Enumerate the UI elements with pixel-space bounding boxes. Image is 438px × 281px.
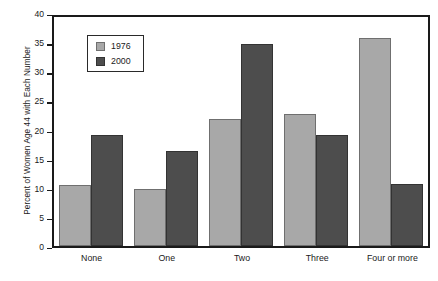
bar-four-or-more-1976 [359,38,391,246]
bar-none-1976 [59,185,91,246]
bar-three-2000 [316,135,348,246]
y-axis-title: Percent of Women Age 44 with Each Number [23,6,32,256]
bar-group [204,15,279,246]
x-axis-tick-labels: NoneOneTwoThreeFour or more [54,253,430,263]
y-axis-tick: 25 [47,102,52,103]
bar-group [279,15,354,246]
bar-none-2000 [91,135,123,246]
x-axis-label: Three [280,253,355,263]
x-axis-label: Four or more [355,253,430,263]
y-axis-tick-label: 5 [39,213,44,223]
y-axis-tick: 10 [47,190,52,191]
chart-legend: 1976 2000 [87,35,144,72]
y-axis-tick: 40 [47,15,52,16]
legend-item: 1976 [96,41,131,51]
y-axis-tick-label: 30 [34,67,44,77]
y-axis-tick-label: 40 [34,9,44,19]
y-axis-tick-label: 15 [34,155,44,165]
bar-two-1976 [209,119,241,246]
x-axis-label: One [129,253,204,263]
y-axis-tick: 0 [47,248,52,249]
legend-label-1976: 1976 [111,41,131,51]
y-axis-tick: 35 [47,44,52,45]
legend-swatch-1976 [96,42,105,51]
y-axis-tick-label: 0 [39,242,44,252]
y-axis-tick: 5 [47,219,52,220]
bar-three-1976 [284,114,316,246]
x-axis-label: None [54,253,129,263]
x-axis-line [52,246,430,248]
x-axis-label: Two [204,253,279,263]
y-axis-tick: 30 [47,73,52,74]
bar-group [354,15,429,246]
bar-four-or-more-2000 [391,184,423,246]
bar-one-1976 [134,189,166,246]
y-axis-tick-label: 25 [34,96,44,106]
y-axis-tick-label: 10 [34,184,44,194]
legend-swatch-2000 [96,57,105,66]
legend-label-2000: 2000 [111,56,131,66]
y-axis-tick-label: 20 [34,126,44,136]
y-axis-tick: 15 [47,161,52,162]
legend-item: 2000 [96,56,131,66]
bar-two-2000 [241,44,273,246]
y-axis-tick-label: 35 [34,38,44,48]
bar-chart-figure: Percent of Women Age 44 with Each Number… [0,0,438,281]
bar-one-2000 [166,151,198,246]
plot-border-right [428,15,430,248]
y-axis-tick: 20 [47,132,52,133]
